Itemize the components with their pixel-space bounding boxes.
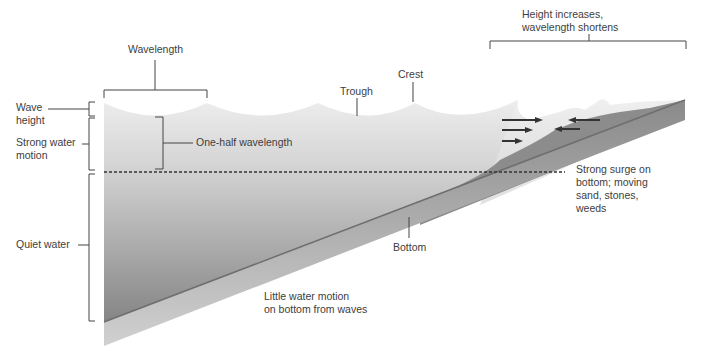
strong-surge-label: Strong surge on bottom; moving sand, sto… [576, 163, 651, 215]
height-increases-bracket [490, 34, 686, 49]
bottom-label: Bottom [393, 241, 426, 254]
crest-label: Crest [398, 68, 423, 81]
trough-label: Trough [340, 85, 373, 98]
wave-height-label: Wave height [16, 101, 45, 127]
quiet-water-label: Quiet water [16, 238, 70, 251]
one-half-wavelength-label: One-half wavelength [196, 136, 292, 149]
strong-water-motion-label: Strong water motion [16, 136, 76, 162]
little-motion-label: Little water motion on bottom from waves [264, 290, 367, 316]
wavelength-label: Wavelength [128, 43, 183, 56]
left-brackets [48, 102, 95, 321]
height-increases-label: Height increases, wavelength shortens [522, 8, 618, 34]
wavelength-bracket [104, 60, 207, 98]
